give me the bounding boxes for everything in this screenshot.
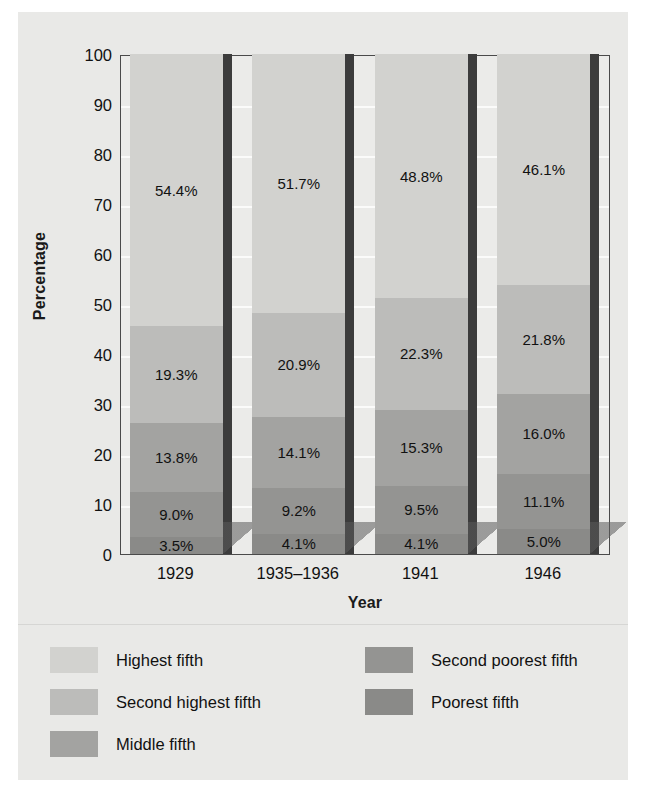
legend-color-swatch <box>50 647 98 673</box>
bar-segment[interactable]: 51.7% <box>252 54 345 313</box>
bar-segment-value-label: 51.7% <box>277 175 320 192</box>
bar-segment-value-label: 16.0% <box>522 425 565 442</box>
bar-segment-value-label: 4.1% <box>404 535 438 552</box>
bar-segment[interactable]: 16.0% <box>497 394 590 474</box>
stacked-bar[interactable]: 54.4%19.3%13.8%9.0%3.5% <box>130 54 223 554</box>
bar-segment-value-label: 13.8% <box>155 449 198 466</box>
bar-segment[interactable]: 14.1% <box>252 417 345 488</box>
bar-segment[interactable]: 4.1% <box>375 534 468 555</box>
y-axis-tick-label: 30 <box>46 397 112 414</box>
y-axis-tick-label: 70 <box>46 197 112 214</box>
y-axis-tick-label: 100 <box>46 47 112 64</box>
bar-segment-value-label: 46.1% <box>522 161 565 178</box>
bar-segment[interactable]: 4.1% <box>252 534 345 555</box>
bar-group: 51.7%20.9%14.1%9.2%4.1% <box>252 56 345 554</box>
legend-color-swatch <box>50 689 98 715</box>
bar-segment[interactable]: 5.0% <box>497 529 590 554</box>
legend-item-label: Second highest fifth <box>116 693 261 712</box>
bar-drop-shadow <box>590 522 627 554</box>
y-axis-tick-label: 20 <box>46 447 112 464</box>
bar-segment[interactable]: 13.8% <box>130 423 223 492</box>
stacked-bar[interactable]: 48.8%22.3%15.3%9.5%4.1% <box>375 54 468 554</box>
x-axis-tick-label: 1946 <box>524 564 561 583</box>
y-axis-tick-label: 90 <box>46 97 112 114</box>
bar-side-face <box>590 54 599 554</box>
x-axis-title: Year <box>120 594 610 612</box>
bar-segment-value-label: 14.1% <box>277 444 320 461</box>
bar-segment-value-label: 21.8% <box>522 331 565 348</box>
bar-segment[interactable]: 48.8% <box>375 54 468 298</box>
x-axis-tick-label: 1929 <box>157 564 194 583</box>
bar-segment-value-label: 22.3% <box>400 345 443 362</box>
bar-segment[interactable]: 11.1% <box>497 474 590 530</box>
x-axis-tick-label: 1941 <box>402 564 439 583</box>
bar-segment-value-label: 48.8% <box>400 168 443 185</box>
bar-segment-value-label: 9.0% <box>159 506 193 523</box>
legend-item[interactable]: Second highest fifth <box>50 688 261 716</box>
bar-group: 48.8%22.3%15.3%9.5%4.1% <box>375 56 468 554</box>
bar-group: 54.4%19.3%13.8%9.0%3.5% <box>130 56 223 554</box>
bar-group: 46.1%21.8%16.0%11.1%5.0% <box>497 56 590 554</box>
legend-item-label: Middle fifth <box>116 735 196 754</box>
legend-item-label: Highest fifth <box>116 651 203 670</box>
chart-figure: Percentage 1009080706050403020100 54.4%1… <box>18 12 628 780</box>
y-axis-tick-label: 80 <box>46 147 112 164</box>
legend-item[interactable]: Highest fifth <box>50 646 203 674</box>
legend-item-label: Poorest fifth <box>431 693 519 712</box>
y-axis-tick-label: 60 <box>46 247 112 264</box>
legend-color-swatch <box>365 689 413 715</box>
bar-segment-value-label: 54.4% <box>155 182 198 199</box>
bar-segment[interactable]: 54.4% <box>130 54 223 326</box>
bar-segment-value-label: 11.1% <box>523 493 564 510</box>
bar-segment[interactable]: 22.3% <box>375 298 468 410</box>
bar-segment[interactable]: 9.0% <box>130 492 223 537</box>
bar-segment-value-label: 19.3% <box>155 366 198 383</box>
legend-color-swatch <box>365 647 413 673</box>
legend-item[interactable]: Poorest fifth <box>365 688 519 716</box>
y-axis-tick-label: 10 <box>46 497 112 514</box>
bar-segment[interactable]: 9.5% <box>375 486 468 534</box>
stacked-bar[interactable]: 51.7%20.9%14.1%9.2%4.1% <box>252 54 345 554</box>
legend-divider <box>18 624 628 625</box>
bar-segment-value-label: 4.1% <box>282 535 316 552</box>
y-axis-tick-label: 40 <box>46 347 112 364</box>
bar-segment[interactable]: 19.3% <box>130 326 223 423</box>
bar-segment[interactable]: 20.9% <box>252 313 345 418</box>
x-axis-tick-label: 1935–1936 <box>256 564 339 583</box>
y-axis-tick-labels: 1009080706050403020100 <box>46 55 112 555</box>
bar-segment[interactable]: 46.1% <box>497 54 590 285</box>
y-axis-tick-label: 0 <box>46 547 112 564</box>
bar-segment[interactable]: 9.2% <box>252 488 345 534</box>
chart-legend: Highest fifthSecond highest fifthMiddle … <box>18 624 628 754</box>
bar-segment[interactable]: 3.5% <box>130 537 223 555</box>
bar-segment-value-label: 3.5% <box>159 537 193 554</box>
legend-item[interactable]: Second poorest fifth <box>365 646 578 674</box>
bar-segment[interactable]: 21.8% <box>497 285 590 394</box>
bar-side-face <box>223 54 232 554</box>
bar-side-face <box>468 54 477 554</box>
bar-segment[interactable]: 15.3% <box>375 410 468 487</box>
bar-segment-value-label: 15.3% <box>400 439 443 456</box>
bar-segment-value-label: 5.0% <box>527 533 561 550</box>
bar-series-container: 54.4%19.3%13.8%9.0%3.5%51.7%20.9%14.1%9.… <box>121 56 609 554</box>
stacked-bar[interactable]: 46.1%21.8%16.0%11.1%5.0% <box>497 54 590 554</box>
legend-item[interactable]: Middle fifth <box>50 730 196 758</box>
bar-segment-value-label: 9.2% <box>282 502 316 519</box>
y-axis-tick-label: 50 <box>46 297 112 314</box>
plot-area: 54.4%19.3%13.8%9.0%3.5%51.7%20.9%14.1%9.… <box>120 55 610 555</box>
legend-color-swatch <box>50 731 98 757</box>
bar-side-face <box>345 54 354 554</box>
legend-item-label: Second poorest fifth <box>431 651 578 670</box>
bar-segment-value-label: 20.9% <box>277 356 320 373</box>
x-axis-tick-labels: 19291935–193619411946 <box>120 564 610 590</box>
bar-segment-value-label: 9.5% <box>404 501 438 518</box>
